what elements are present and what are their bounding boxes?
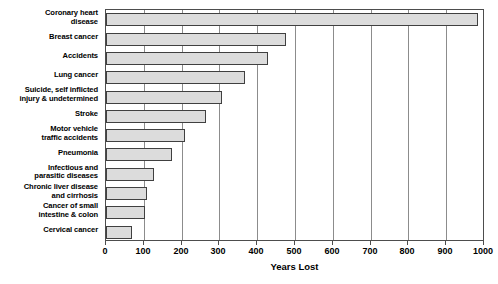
category-label: Cancer of smallintestine & colon [0, 202, 98, 219]
category-label-line: Accidents [0, 52, 98, 61]
bar[interactable] [106, 168, 154, 181]
bar[interactable] [106, 187, 147, 200]
category-label: Breast cancer [0, 33, 98, 42]
category-label-line: traffic accidents [0, 134, 98, 143]
category-label-line: Breast cancer [0, 33, 98, 42]
x-axis-tick-label: 300 [210, 246, 225, 256]
category-label-line: and cirrhosis [0, 192, 98, 201]
x-axis-tick [370, 241, 371, 245]
category-label-line: Stroke [0, 110, 98, 119]
bar[interactable] [106, 148, 172, 161]
x-axis-tick [218, 241, 219, 245]
x-axis-tick-label: 200 [173, 246, 188, 256]
bar[interactable] [106, 226, 132, 239]
category-label-line: Lung cancer [0, 71, 98, 80]
x-axis-tick-label: 1000 [473, 246, 493, 256]
x-axis-tick [256, 241, 257, 245]
category-label-line: parasitic diseases [0, 172, 98, 181]
category-label: Chronic liver diseaseand cirrhosis [0, 183, 98, 200]
gridline [295, 10, 296, 240]
plot-area [105, 9, 484, 241]
category-label-line: intestine & colon [0, 211, 98, 220]
x-axis-title: Years Lost [105, 261, 484, 272]
category-label: Stroke [0, 110, 98, 119]
gridline [333, 10, 334, 240]
x-axis-tick [294, 241, 295, 245]
x-axis-tick-label: 0 [102, 246, 107, 256]
category-label: Motor vehicletraffic accidents [0, 125, 98, 142]
x-axis-tick-label: 700 [362, 246, 377, 256]
category-label-line: injury & undetermined [0, 95, 98, 104]
category-label: Suicide, self inflictedinjury & undeterm… [0, 86, 98, 103]
x-axis-tick-label: 900 [437, 246, 452, 256]
x-axis-tick-label: 800 [399, 246, 414, 256]
years-lost-bar-chart: Coronary heartdiseaseBreast cancerAccide… [0, 0, 498, 284]
bar[interactable] [106, 71, 245, 84]
gridline [408, 10, 409, 240]
x-axis-tick-label: 600 [324, 246, 339, 256]
x-axis-tick [105, 241, 106, 245]
bar[interactable] [106, 110, 206, 123]
x-axis-tick [143, 241, 144, 245]
bar[interactable] [106, 33, 286, 46]
bar[interactable] [106, 129, 185, 142]
category-label: Coronary heartdisease [0, 9, 98, 26]
x-axis-tick [445, 241, 446, 245]
category-axis-labels: Coronary heartdiseaseBreast cancerAccide… [0, 9, 102, 241]
x-axis-tick [332, 241, 333, 245]
category-label: Accidents [0, 52, 98, 61]
category-label: Pneumonia [0, 149, 98, 158]
category-label-line: Cervical cancer [0, 226, 98, 235]
bar[interactable] [106, 13, 478, 26]
gridline [446, 10, 447, 240]
bar[interactable] [106, 52, 268, 65]
category-label: Lung cancer [0, 71, 98, 80]
x-axis-tick-label: 400 [248, 246, 263, 256]
category-label: Cervical cancer [0, 226, 98, 235]
x-axis-tick-label: 100 [135, 246, 150, 256]
x-axis-tick [407, 241, 408, 245]
x-axis-tick-label: 500 [286, 246, 301, 256]
category-label-line: Pneumonia [0, 149, 98, 158]
gridline [371, 10, 372, 240]
x-axis-tick [483, 241, 484, 245]
x-axis-tick [181, 241, 182, 245]
bar[interactable] [106, 206, 145, 219]
category-label: Infectious andparasitic diseases [0, 164, 98, 181]
bar[interactable] [106, 91, 222, 104]
category-label-line: disease [0, 18, 98, 27]
